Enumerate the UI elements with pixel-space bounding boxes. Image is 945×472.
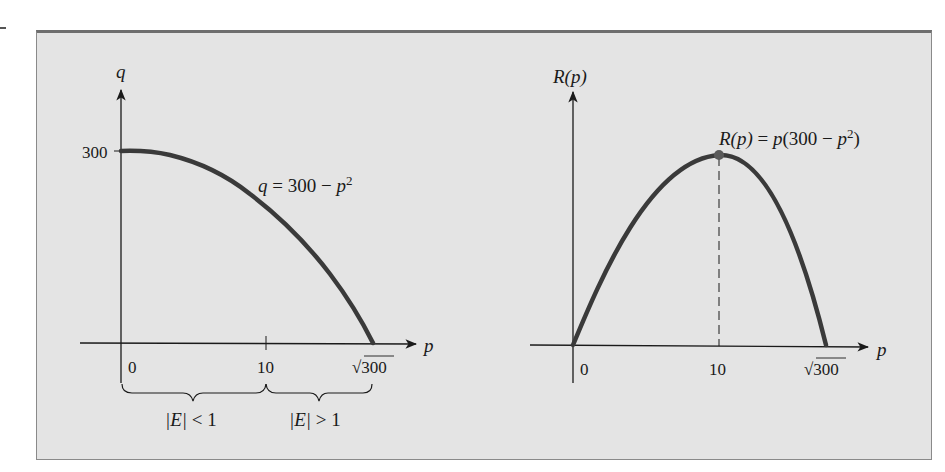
figure-svg: q p 300 0 10 √300 q = 300 − p2 |E| < 1 |… — [0, 0, 945, 472]
brace-label-inelastic: |E| < 1 — [165, 409, 217, 430]
demand-curve-label: q = 300 − p2 — [258, 173, 352, 196]
max-point — [714, 150, 724, 160]
brace-elastic — [266, 384, 372, 401]
left-x-tick-label-sqrt300: √300 — [352, 358, 387, 377]
brace-label-elastic: |E| > 1 — [289, 409, 341, 430]
left-y-tick-label-300: 300 — [82, 143, 108, 162]
brace-inelastic — [122, 384, 266, 401]
right-x-tick-label-10: 10 — [709, 360, 726, 379]
right-x-axis — [530, 345, 868, 347]
right-x-tick-label-0: 0 — [580, 360, 589, 379]
left-x-tick-label-10: 10 — [257, 358, 274, 377]
right-x-axis-label: p — [875, 339, 887, 360]
left-y-axis-label: q — [116, 61, 126, 82]
revenue-curve-label: R(p) = p(300 − p2) — [718, 126, 860, 150]
right-y-axis-label: R(p) — [552, 66, 587, 88]
left-x-tick-label-0: 0 — [128, 358, 137, 377]
revenue-curve — [573, 155, 826, 345]
right-x-tick-label-sqrt300: √300 — [804, 360, 839, 379]
left-x-axis-label: p — [422, 335, 434, 356]
right-chart: R(p) p 0 10 √300 R(p) = p(300 − p2) — [530, 66, 887, 383]
left-x-axis — [80, 343, 416, 344]
left-chart: q p 300 0 10 √300 q = 300 − p2 |E| < 1 |… — [80, 61, 434, 430]
